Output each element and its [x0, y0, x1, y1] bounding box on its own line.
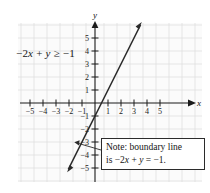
x-tick-label: 1 — [106, 107, 110, 116]
inequality-graph-figure: −5 −4 −3 −2 −1 1 2 3 4 5 5 4 3 2 1 −1 −2… — [0, 0, 210, 193]
inequality-annotation: −2x + y ≥ −1 — [16, 47, 75, 59]
inequality-relation: ≥ — [51, 47, 63, 59]
inequality-lead: −2 — [16, 47, 28, 59]
x-tick-label: −5 — [26, 107, 35, 116]
y-tick-label: −5 — [80, 164, 89, 173]
note-line-2: is −2x + y = −1. — [106, 154, 201, 167]
y-axis-label: y — [92, 10, 97, 20]
inequality-plus: + — [33, 47, 45, 59]
note-rhs: −1. — [153, 155, 165, 165]
y-tick-label: 3 — [85, 60, 89, 69]
x-tick-label: 2 — [119, 107, 123, 116]
y-tick-label: 1 — [85, 86, 89, 95]
x-tick-label: −4 — [39, 107, 48, 116]
note-line-2-prefix: is −2 — [106, 155, 125, 165]
x-tick-label: −2 — [65, 107, 74, 116]
note-line-1: Note: boundary line — [106, 141, 201, 154]
note-callout-box: Note: boundary line is −2x + y = −1. — [101, 138, 205, 170]
x-tick-label: −3 — [52, 107, 61, 116]
x-tick-label: 4 — [145, 107, 149, 116]
y-tick-label: 5 — [85, 34, 89, 43]
y-tick-label: −1 — [80, 112, 89, 121]
inequality-rhs: −1 — [63, 47, 75, 59]
x-tick-label: 5 — [158, 107, 162, 116]
note-plus: + — [129, 155, 139, 165]
y-tick-label: 2 — [85, 73, 89, 82]
x-tick-label: 3 — [132, 107, 136, 116]
x-axis-label: x — [196, 98, 201, 108]
note-equals: = — [143, 155, 153, 165]
y-tick-label: 4 — [85, 47, 89, 56]
y-tick-label: −4 — [80, 151, 89, 160]
